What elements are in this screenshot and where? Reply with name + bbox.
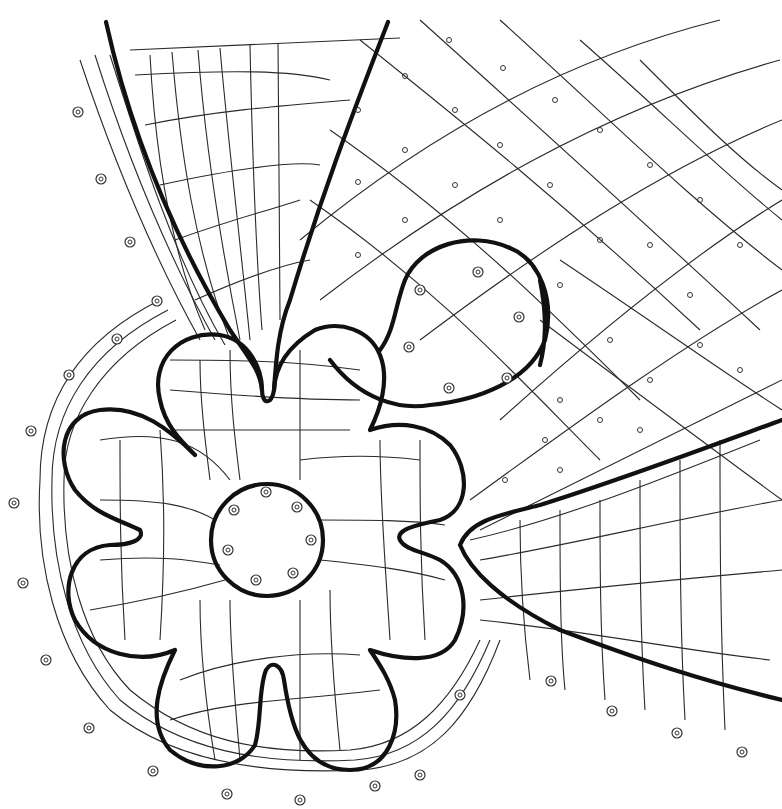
bold-outlines <box>64 22 782 770</box>
pin-icon <box>404 342 414 352</box>
flower-fill <box>90 350 445 760</box>
pin-icon <box>546 676 556 686</box>
circle-motif-outline <box>330 240 548 406</box>
pin-icon <box>18 578 28 588</box>
pin-icon <box>455 690 465 700</box>
pin-icon <box>222 789 232 799</box>
pin-icon <box>261 487 271 497</box>
pin-icon <box>415 285 425 295</box>
pin-icon <box>64 370 74 380</box>
pin-icon <box>306 535 316 545</box>
pin-icon <box>112 334 122 344</box>
pin-icon <box>84 723 94 733</box>
pin-icon <box>444 383 454 393</box>
pin-icon <box>152 296 162 306</box>
pin-icon <box>9 498 19 508</box>
pin-icon <box>96 174 106 184</box>
pin-icon <box>672 728 682 738</box>
pin-icon <box>251 575 261 585</box>
pin-icon <box>41 655 51 665</box>
pin-icon <box>502 373 512 383</box>
lace-pricking-drawing <box>0 0 782 809</box>
pin-icon <box>415 770 425 780</box>
pin-icon <box>295 795 305 805</box>
pin-icon <box>148 766 158 776</box>
pin-icon <box>125 237 135 247</box>
right-trail-outline <box>460 420 782 700</box>
pin-icon <box>26 426 36 436</box>
left-trail-grid <box>80 38 400 345</box>
pin-icon <box>370 781 380 791</box>
outer-trail <box>39 300 500 771</box>
pin-icon <box>473 267 483 277</box>
pin-icon <box>229 505 239 515</box>
lace-diagram <box>0 0 782 809</box>
pin-icon <box>607 706 617 716</box>
pin-icon <box>737 747 747 757</box>
pin-icon <box>292 502 302 512</box>
pin-icon <box>223 545 233 555</box>
pin-icon <box>73 107 83 117</box>
pin-icon <box>288 568 298 578</box>
pin-icon <box>514 312 524 322</box>
left-trail-outline <box>106 22 388 401</box>
